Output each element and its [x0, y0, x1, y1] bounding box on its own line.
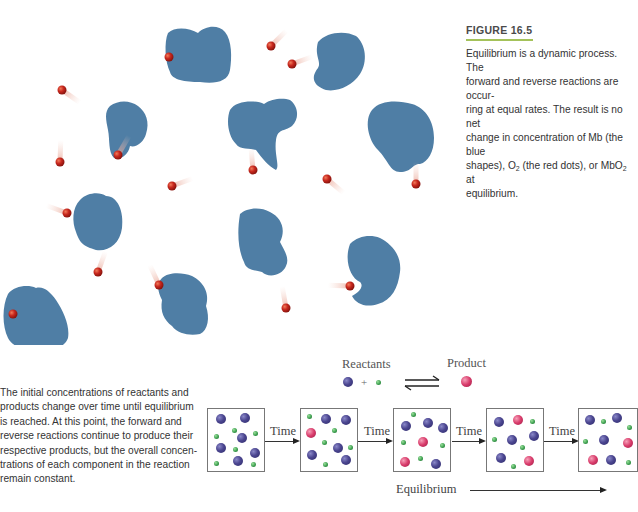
mb-shape — [166, 27, 232, 83]
reactant-a — [307, 450, 317, 460]
o2-dot — [94, 268, 103, 277]
reactant-a — [401, 421, 411, 431]
o2-dot — [168, 182, 177, 191]
reactant-a — [612, 413, 622, 423]
caption-line: Equilibrium is a dynamic process. The — [466, 47, 632, 75]
o2-dot — [165, 53, 174, 62]
caption-line: forward and reverse reactions are occur- — [466, 75, 632, 103]
caption-line: equilibrium. — [466, 187, 632, 201]
reactant-a — [599, 435, 609, 445]
product — [588, 455, 598, 465]
reactant-a — [431, 459, 441, 469]
mb-shape — [73, 193, 122, 250]
reactant-a — [216, 443, 226, 453]
o2-dot — [267, 42, 276, 51]
product — [418, 437, 428, 447]
reactant-a — [496, 453, 506, 463]
reactant-b — [332, 428, 337, 433]
reactant-b-icon — [376, 380, 381, 385]
side-text-line: reverse reactions continue to produce th… — [0, 429, 200, 443]
figure-label: FIGURE 16.5 — [466, 24, 533, 41]
reactant-b — [418, 456, 423, 461]
o2-dot — [346, 282, 355, 291]
o2-dot — [63, 209, 72, 218]
mb-shape — [314, 33, 365, 91]
subscript: 2 — [623, 165, 627, 172]
reactant-b — [232, 428, 237, 433]
mb-shape — [348, 236, 401, 306]
product — [513, 415, 523, 425]
reactant-b — [530, 419, 535, 424]
mb-shapes — [4, 27, 435, 345]
reactant-b — [307, 414, 312, 419]
reactant-a-icon — [343, 377, 353, 387]
box-2 — [300, 408, 358, 472]
reactant-b — [253, 431, 258, 436]
reactant-a — [240, 413, 250, 423]
side-text-line: trations of each component in the reacti… — [0, 458, 200, 472]
reactant-b — [440, 443, 445, 448]
side-text-line: products change over time until equilibr… — [0, 400, 200, 414]
time-arrow — [265, 441, 293, 442]
caption-line: change in concentration of Mb (the blue — [466, 131, 632, 159]
o2-dot — [288, 60, 297, 69]
product — [524, 456, 534, 466]
reactant-b — [520, 445, 525, 450]
o2-dot — [155, 281, 164, 290]
product — [400, 457, 410, 467]
reactant-b — [411, 412, 416, 417]
reactant-a — [341, 455, 351, 465]
reactant-b — [401, 440, 406, 445]
figure-caption: FIGURE 16.5 Equilibrium is a dynamic pro… — [466, 24, 632, 201]
reactant-b — [233, 447, 238, 452]
reactant-a — [341, 415, 351, 425]
mb-shape — [228, 99, 297, 170]
caption-fragment: at — [466, 174, 475, 185]
time-label: Time — [456, 424, 482, 439]
arrow-head-icon — [479, 438, 486, 444]
time-arrow — [544, 441, 572, 442]
reactant-b — [626, 460, 631, 465]
reactants-label: Reactants — [342, 357, 391, 372]
box-3-equilibrium — [393, 408, 451, 472]
box-1-initial — [207, 408, 265, 472]
reactant-b — [323, 462, 328, 467]
reactant-a — [250, 448, 260, 458]
caption-line: shapes), O2 (the red dots), or MbO2 at — [466, 159, 632, 187]
arrow-head-icon — [600, 487, 607, 493]
reactant-b — [627, 425, 632, 430]
box-5-equilibrium — [578, 408, 638, 472]
equilibrium-arrows-icon — [403, 375, 441, 391]
time-label: Time — [364, 424, 390, 439]
plus-sign: + — [361, 376, 367, 388]
box-4-equilibrium — [486, 408, 544, 472]
reactant-a — [529, 431, 539, 441]
reactant-a — [438, 423, 448, 433]
product — [623, 438, 633, 448]
reactant-b — [492, 437, 497, 442]
mb-shape — [106, 102, 148, 159]
equilibrium-arrow — [470, 490, 600, 491]
product — [306, 428, 316, 438]
equilibrium-label: Equilibrium — [396, 482, 456, 497]
time-label: Time — [270, 424, 296, 439]
side-explanation: The initial concentrations of reactants … — [0, 386, 200, 487]
reactant-b — [348, 445, 353, 450]
side-text-line: The initial concentrations of reactants … — [0, 386, 200, 400]
side-text-line: respective products, but the overall con… — [0, 444, 200, 458]
o2-dot — [56, 158, 65, 167]
figure-caption-text: Equilibrium is a dynamic process. The fo… — [466, 47, 632, 201]
reactant-a — [233, 456, 243, 466]
reactant-b — [214, 434, 219, 439]
reactant-a — [606, 455, 616, 465]
reactant-a — [585, 415, 595, 425]
reactant-b — [583, 439, 588, 444]
reactant-a — [216, 414, 226, 424]
product-label: Product — [447, 356, 486, 371]
o2-dot — [282, 304, 291, 313]
o2-dot — [323, 175, 332, 184]
reactant-b — [322, 440, 327, 445]
caption-fragment: (the red dots), or MbO — [520, 160, 623, 171]
reactant-a — [237, 433, 247, 443]
mb-shape — [158, 273, 208, 335]
